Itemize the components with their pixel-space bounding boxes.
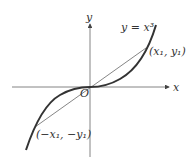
y-axis-label: y	[85, 11, 93, 24]
point-label-p2: (−x₁, −y₁)	[36, 128, 91, 141]
point-label-p1: (x₁, y₁)	[149, 45, 186, 58]
origin-label: O	[80, 87, 89, 100]
cubic-graph-diagram: y x O y = x³ (x₁, y₁) (−x₁, −y₁)	[0, 0, 191, 167]
x-axis-label: x	[173, 81, 180, 94]
curve-label: y = x³	[120, 21, 154, 34]
